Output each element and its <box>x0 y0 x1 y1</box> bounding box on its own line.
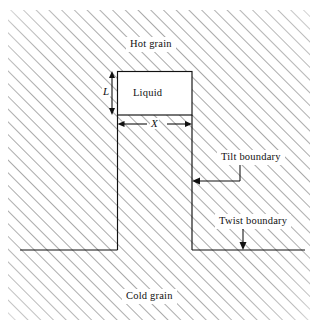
label-tilt-boundary: Tilt boundary <box>217 150 285 165</box>
label-liquid: Liquid <box>133 88 162 99</box>
hatch-fill-group <box>8 10 310 320</box>
label-cold-grain: Cold grain <box>122 289 177 304</box>
figure-container: Hot grain Cold grain Liquid Tilt boundar… <box>0 0 318 328</box>
hatched-solid-region <box>8 10 310 320</box>
label-dimension-x: X <box>150 118 159 129</box>
label-hot-grain: Hot grain <box>126 37 176 52</box>
label-twist-boundary: Twist boundary <box>215 214 291 229</box>
label-dimension-l: L <box>102 86 110 97</box>
